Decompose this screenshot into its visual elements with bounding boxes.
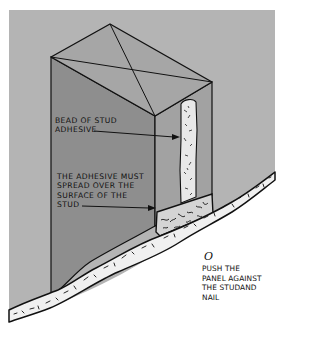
nail-mark: O <box>204 250 213 263</box>
adhesive-bead <box>180 100 197 203</box>
label-adhesive-must-spread: THE ADHESIVE MUST SPREAD OVER THE SURFAC… <box>57 172 144 210</box>
label-push-panel: PUSH THE PANEL AGAINST THE STUDAND NAIL <box>202 264 262 302</box>
label-bead-of-stud-adhesive: BEAD OF STUD ADHESIVE <box>55 116 117 135</box>
